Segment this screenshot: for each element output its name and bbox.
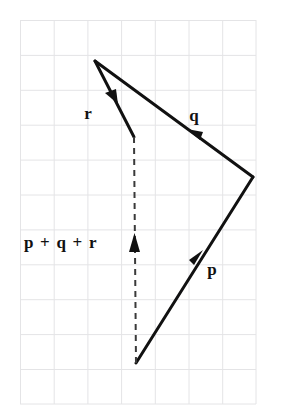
vector-label-q: q <box>189 106 199 125</box>
figure-background <box>0 0 294 417</box>
vector-label-p: p <box>207 260 216 279</box>
vector-addition-diagram: r q p p + q + r <box>0 0 294 417</box>
vector-label-resultant: p + q + r <box>24 233 98 252</box>
vector-label-r: r <box>84 104 92 123</box>
